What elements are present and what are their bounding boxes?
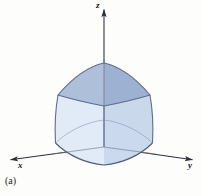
figure-3d-diagram (0, 0, 201, 196)
x-axis-label: x (18, 161, 23, 170)
figure-caption: (a) (5, 176, 16, 186)
z-axis-label: z (96, 1, 100, 10)
figure-3d-solid-panel-a: z x y (a) (0, 0, 201, 196)
solid-face-front-left (55, 95, 104, 165)
solid-face-front-right (104, 95, 153, 165)
y-axis-label: y (188, 161, 192, 170)
